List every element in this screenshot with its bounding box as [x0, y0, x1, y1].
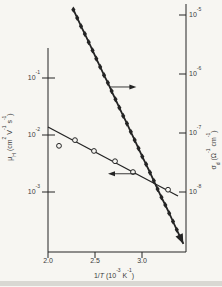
x-tick-label: 3.0 — [132, 256, 152, 265]
plot-canvas — [0, 0, 222, 287]
x-tick-label: 2.5 — [85, 256, 105, 265]
right-tick-label: 10-6 — [189, 69, 201, 78]
chart: 2.02.53.010-110-210-310-510-610-710-8μH … — [0, 0, 222, 287]
sigma-end-arrowhead — [176, 233, 184, 244]
left-tick-label: 10-1 — [28, 73, 40, 82]
right-tick-label: 10-7 — [189, 128, 201, 137]
scan-artifact-band — [0, 281, 222, 286]
open-circle-marker — [92, 149, 97, 154]
x-tick-label: 2.0 — [38, 256, 58, 265]
left-tick-label: 10-2 — [28, 130, 40, 139]
right-axis-title: σd (Ω-1 cm-1) — [209, 130, 218, 169]
left-arrowhead-icon — [108, 171, 115, 176]
x-axis-title: 1/T (10-3 K-1) — [94, 271, 134, 280]
open-circle-marker — [113, 159, 118, 164]
left-axis-title: μH (cm2 V-1 s-1) — [5, 113, 14, 160]
open-circle-marker — [73, 138, 78, 143]
right-tick-label: 10-5 — [189, 10, 201, 19]
left-tick-label: 10-3 — [28, 187, 40, 196]
open-circle-marker — [57, 143, 62, 148]
open-circle-marker — [166, 187, 171, 192]
sigma-line — [73, 10, 183, 244]
right-tick-label: 10-8 — [189, 187, 201, 196]
right-arrowhead-icon — [129, 84, 136, 89]
